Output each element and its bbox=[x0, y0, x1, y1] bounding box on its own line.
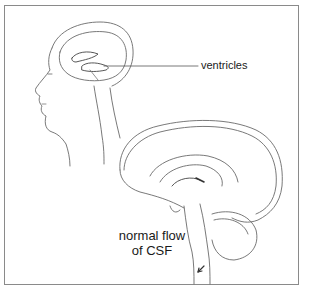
sagittal-brain-drawing bbox=[120, 120, 282, 284]
ventricles-label: ventricles bbox=[201, 59, 247, 72]
head-profile-drawing bbox=[35, 22, 133, 166]
csf-label-line1: normal flow bbox=[118, 229, 186, 244]
csf-flow-label: normal flow of CSF bbox=[118, 229, 186, 259]
csf-label-line2: of CSF bbox=[118, 244, 186, 259]
